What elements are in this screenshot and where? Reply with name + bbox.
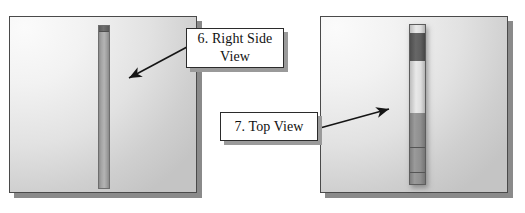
top-view-bar-segment-bottom-cap (410, 173, 425, 185)
callout-6-line-1: 6. Right Side (198, 31, 273, 46)
top-view-bar-wrap (409, 24, 426, 185)
right-side-view-bar (98, 25, 110, 189)
top-view-bar-segment-light-cap (410, 25, 425, 33)
callout-7-box[interactable]: 7. Top View (220, 112, 318, 141)
right-side-view-panel (9, 16, 197, 193)
callout-7-label: 7. Top View (230, 118, 307, 136)
top-view-bar (409, 24, 426, 185)
right-side-view-bar-top-cap (99, 26, 109, 32)
top-view-bar-segment-mid-body (410, 113, 425, 147)
callout-6-box[interactable]: 6. Right Side View (186, 28, 284, 68)
top-view-panel (320, 16, 508, 193)
callout-6-line-2: View (220, 49, 250, 64)
figure-canvas: 6. Right Side View 7. Top View (0, 0, 525, 213)
callout-7-line-1: 7. Top View (234, 119, 303, 134)
top-view-bar-segment-dark-band (410, 33, 425, 61)
callout-6-label: 6. Right Side View (194, 30, 277, 66)
top-view-bar-segment-lower-band (410, 148, 425, 172)
top-view-bar-segment-light-body (410, 61, 425, 113)
